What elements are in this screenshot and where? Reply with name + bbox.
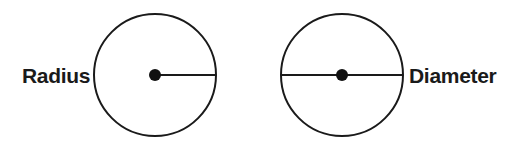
diameter-center-dot (336, 69, 348, 81)
diameter-figure: Diameter (281, 14, 497, 136)
radius-center-dot (149, 69, 161, 81)
radius-label: Radius (22, 64, 90, 87)
diameter-label: Diameter (409, 64, 497, 87)
radius-figure: Radius (22, 14, 216, 136)
circle-diagram: Radius Diameter (0, 0, 521, 142)
